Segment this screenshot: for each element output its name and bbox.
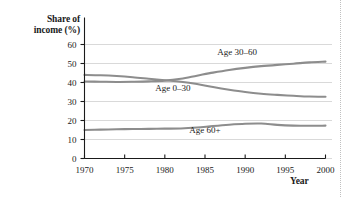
x-tick-label: 2000 — [317, 165, 336, 175]
x-tick-label: 1980 — [156, 165, 175, 175]
y-tick-labels: 0102030405060 — [68, 40, 78, 164]
series-label: Age 30–60 — [217, 47, 257, 57]
series-line — [85, 75, 326, 97]
series-label: Age 0–30 — [155, 83, 191, 93]
y-tick-label: 10 — [68, 135, 78, 145]
x-tick-label: 1995 — [276, 165, 295, 175]
axis-lines — [85, 18, 326, 159]
y-tick-label: 30 — [68, 97, 78, 107]
y-tick-label: 20 — [68, 116, 78, 126]
y-tick-label: 60 — [68, 40, 78, 50]
line-chart-plot: 0102030405060 19701975198019851990199520… — [0, 0, 349, 197]
series-label: Age 60+ — [189, 125, 220, 135]
x-tick-labels: 1970197519801985199019952000 — [76, 165, 336, 175]
x-tick-label: 1985 — [196, 165, 215, 175]
y-tick-label: 50 — [68, 59, 78, 69]
y-tick-label: 40 — [68, 78, 78, 88]
gridlines — [85, 45, 333, 159]
series-line — [85, 62, 326, 82]
x-tick-label: 1970 — [76, 165, 95, 175]
chart-figure: Share of income (%) Year 0102030405060 1… — [0, 0, 349, 197]
x-tick-label: 1990 — [236, 165, 255, 175]
page-divider — [340, 0, 341, 197]
x-tick-label: 1975 — [116, 165, 135, 175]
data-series — [85, 62, 326, 130]
y-tick-label: 0 — [72, 154, 77, 164]
